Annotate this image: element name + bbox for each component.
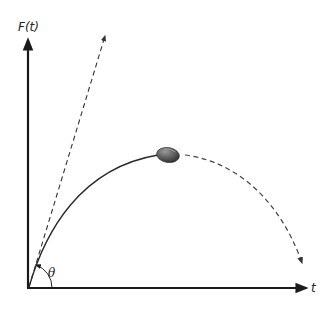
tangent-line <box>29 36 105 287</box>
x-axis-label: t <box>311 281 317 295</box>
trajectory-diagram: F(t) t θ <box>0 0 333 310</box>
angle-label: θ <box>48 266 56 280</box>
y-axis-label: F(t) <box>18 20 39 34</box>
trajectory-dashed <box>185 155 302 263</box>
football-icon <box>156 146 181 164</box>
